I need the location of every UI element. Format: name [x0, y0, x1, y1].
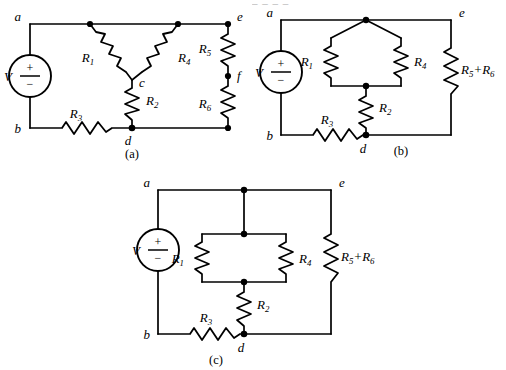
resistor-r2-b	[359, 96, 373, 128]
resistor-r2-c	[237, 292, 251, 326]
resistor-label-r5r6-b: R5+R6	[460, 62, 495, 79]
node-dots-a	[87, 21, 231, 131]
node-dot-c-d	[241, 331, 248, 338]
resistor-r6-a	[221, 86, 235, 118]
resistor-r3-a	[62, 122, 112, 134]
resistor-label-r4-a: R4	[177, 50, 191, 67]
source-minus-sign-c: −	[155, 251, 162, 265]
node-label-b-b: b	[267, 128, 274, 143]
node-label-b-a: a	[267, 5, 274, 20]
resistor-r2-a	[125, 88, 139, 120]
node-dot-f	[225, 73, 231, 79]
resistor-r5-plus-r6-b	[444, 48, 458, 94]
resistor-label-r4-b: R4	[413, 54, 427, 71]
node-label-c: c	[139, 75, 145, 90]
resistor-r1-b	[324, 46, 338, 78]
resistor-label-r1-a: R1	[81, 50, 94, 67]
node-label-c-d: d	[238, 340, 245, 355]
panel-caption-b: (b)	[394, 144, 409, 158]
node-label-c-e: e	[339, 175, 345, 190]
resistor-r1-c	[195, 242, 209, 274]
circuit-b-svg: + − a b d e V R1 R4 R2 R3	[253, 0, 506, 162]
node-dot-r1-top	[87, 21, 93, 27]
source-minus-sign: −	[27, 77, 34, 91]
wire-r1-lead-bottom	[126, 72, 132, 80]
resistor-r5-a	[221, 34, 235, 66]
resistor-label-r2-b: R2	[378, 100, 392, 117]
circuit-panel-c: + − a b d e V R1 R4 R2	[126, 172, 416, 370]
node-label-e: e	[237, 9, 243, 24]
voltage-source-a: + −	[9, 55, 51, 97]
circuit-c-svg: + − a b d e V R1 R4 R2	[126, 172, 416, 370]
resistor-r3-c	[190, 328, 240, 340]
resistor-label-r3-a: R3	[69, 106, 83, 123]
resistor-r4-a	[142, 32, 172, 72]
wire-b-apex-to-r1top	[331, 20, 366, 38]
node-label-a: a	[15, 9, 22, 24]
resistor-label-r1-c: R1	[171, 251, 184, 268]
resistor-label-r3-b: R3	[320, 112, 334, 129]
node-dot-b-parallel-bottom	[363, 83, 369, 89]
node-label-c-a: a	[144, 175, 151, 190]
node-dot-b-apex	[363, 17, 369, 23]
resistor-label-r3-c: R3	[199, 310, 213, 327]
node-dot-r4-top	[175, 21, 181, 27]
node-label-f: f	[237, 68, 243, 83]
resistor-label-r6-a: R6	[198, 96, 212, 113]
wire-b-apex-to-r4top	[366, 20, 401, 38]
resistor-r4-c	[279, 242, 293, 274]
resistor-label-r5-a: R5	[198, 41, 212, 58]
source-plus-sign-b: +	[278, 57, 285, 71]
node-dot-bottom-right	[225, 125, 231, 131]
node-label-b-d: d	[360, 141, 367, 156]
node-label-c-b: b	[144, 327, 151, 342]
voltage-source-b: + −	[260, 51, 302, 93]
circuit-panel-a: + − a b c d e f V	[0, 0, 253, 160]
panel-caption-a: (a)	[125, 147, 139, 161]
resistor-label-r2-a: R2	[145, 93, 159, 110]
resistor-r3-b	[313, 129, 363, 141]
resistor-r1-a	[96, 32, 126, 72]
node-dot-e	[225, 21, 231, 27]
source-plus-sign-c: +	[155, 235, 162, 249]
resistor-label-r4-c: R4	[298, 251, 312, 268]
resistor-label-r5r6-c: R5+R6	[340, 249, 375, 266]
node-dot-d	[129, 125, 136, 132]
source-minus-sign-b: −	[278, 73, 285, 87]
node-label-b: b	[15, 121, 22, 136]
resistor-r5-plus-r6-c	[324, 234, 338, 282]
node-label-b-e: e	[459, 5, 465, 20]
node-label-d: d	[125, 133, 132, 148]
source-plus-sign: +	[27, 61, 34, 75]
circuit-a-svg: + − a b c d e f V	[0, 0, 253, 160]
node-dot-c-parallel-bottom	[241, 279, 247, 285]
node-dot-b-d	[363, 132, 370, 139]
resistor-label-r1-b: R1	[300, 54, 313, 71]
resistor-r4-b	[394, 46, 408, 78]
panel-caption-c: (c)	[209, 353, 223, 367]
resistor-label-r2-c: R2	[256, 297, 270, 314]
node-dot-c-parallel-top	[241, 231, 247, 237]
circuit-panel-b: + − a b d e V R1 R4 R2 R3	[253, 0, 506, 162]
node-dot-c-top	[241, 187, 247, 193]
